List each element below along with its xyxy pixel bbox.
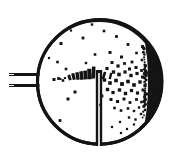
particle: [62, 79, 65, 82]
particle: [111, 126, 113, 128]
particle: [128, 116, 130, 118]
particle: [82, 37, 85, 40]
particle: [142, 89, 145, 92]
particle: [136, 91, 139, 94]
particle: [113, 107, 116, 110]
wall-notch: [105, 19, 107, 21]
particle: [118, 88, 121, 91]
deposit-fringe-speck: [142, 100, 146, 104]
particle: [99, 104, 101, 106]
deposit-fringe-speck: [142, 105, 145, 108]
particle: [123, 98, 126, 101]
wall-notch: [133, 123, 135, 125]
particle: [119, 121, 121, 123]
particle: [94, 53, 97, 56]
particle: [132, 83, 136, 87]
particle: [142, 47, 144, 49]
particle: [105, 67, 108, 70]
wall-notch: [94, 18, 96, 20]
particle: [135, 72, 138, 75]
deposit-fringe-speck: [144, 87, 146, 89]
particle: [120, 56, 123, 59]
jet-segment: [64, 77, 66, 79]
particle: [91, 23, 93, 25]
particle: [101, 95, 104, 98]
particle: [126, 80, 130, 84]
particle: [141, 59, 144, 62]
particle: [140, 69, 143, 72]
particle: [116, 100, 119, 103]
jet-segment: [87, 69, 92, 80]
particle: [53, 78, 56, 81]
particle: [85, 62, 87, 64]
particle: [138, 106, 140, 108]
particle: [103, 78, 106, 81]
deposit-fringe-speck: [143, 56, 145, 58]
particle: [144, 64, 147, 67]
particle: [114, 79, 118, 83]
particle: [111, 91, 114, 94]
wall-notch: [126, 128, 128, 130]
particle: [147, 102, 149, 104]
particle: [146, 51, 148, 53]
particle: [150, 95, 152, 97]
particle: [57, 77, 60, 80]
deposit-fringe-speck: [144, 59, 146, 61]
particle: [135, 66, 138, 69]
deposit-fringe-speck: [143, 114, 145, 116]
particle: [129, 74, 132, 77]
particle: [127, 43, 130, 46]
particle: [141, 76, 144, 79]
particle: [149, 87, 152, 90]
particle: [70, 29, 72, 31]
particle: [60, 42, 63, 45]
particle: [129, 101, 132, 104]
chamber-diagram: Spray deposition chamber cross-section S…: [0, 0, 172, 162]
particle: [135, 98, 138, 101]
particle: [134, 118, 136, 120]
particle: [138, 80, 141, 83]
particle: [124, 92, 127, 95]
wall-notch: [111, 20, 113, 22]
particle: [135, 52, 138, 55]
particle: [65, 68, 68, 71]
particle: [106, 88, 109, 91]
particle: [48, 57, 50, 59]
particle: [123, 70, 126, 73]
particle: [67, 98, 70, 101]
particle: [130, 89, 133, 92]
figure-root: Spray deposition chamber cross-section S…: [0, 0, 172, 162]
particle: [112, 70, 115, 73]
particle: [133, 110, 135, 112]
particle: [146, 72, 149, 75]
particle: [148, 79, 151, 82]
particle: [111, 61, 114, 64]
deposit-fringe-speck: [143, 53, 146, 56]
deposit-fringe-speck: [142, 111, 144, 113]
particle: [117, 73, 121, 77]
probe-inner-gap: [98, 73, 100, 146]
particle: [103, 30, 106, 33]
particle: [120, 82, 124, 86]
particle: [146, 93, 149, 96]
particle: [116, 64, 119, 67]
particle: [140, 113, 142, 115]
deposit-fringe-speck: [144, 61, 146, 63]
jet-segment: [91, 66, 95, 78]
particle: [108, 81, 112, 85]
particle: [143, 84, 146, 87]
particle: [131, 61, 134, 64]
deposit-fringe-speck: [143, 81, 146, 84]
particle: [128, 68, 131, 71]
particle: [109, 51, 112, 54]
vertical-probe: [96, 70, 102, 146]
particle: [115, 35, 118, 38]
particle: [140, 101, 143, 104]
particle: [120, 109, 123, 112]
particle: [123, 62, 126, 65]
particle: [127, 107, 130, 110]
particle: [56, 61, 59, 64]
deposit-fringe-speck: [142, 116, 144, 118]
particle: [110, 98, 113, 101]
particle: [74, 91, 77, 94]
